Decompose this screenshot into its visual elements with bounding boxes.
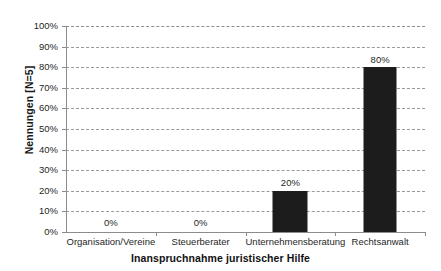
y-axis-line	[66, 26, 67, 233]
x-tick-mark	[425, 232, 426, 236]
y-tick-label: 100%	[34, 21, 58, 31]
x-category-label-rechtsanwalt: Rechtsanwalt	[335, 236, 425, 247]
bar-value-organisation-vereine: 0%	[104, 218, 118, 228]
x-axis-title: Inanspruchnahme juristischer Hilfe	[0, 252, 441, 264]
y-tick-label: 10%	[39, 206, 58, 216]
bar-slot-organisation-vereine: 0%	[66, 26, 156, 232]
bar-slot-steuerberater: 0%	[156, 26, 246, 232]
x-category-label-steuerberater: Steuerberater	[156, 236, 246, 247]
x-category-label-organisation-vereine: Organisation/Vereine	[66, 236, 156, 247]
y-tick-label: 90%	[39, 42, 58, 52]
y-tick-label: 40%	[39, 145, 58, 155]
x-category-label-unternehmensberatung: Unternehmensberatung	[246, 236, 336, 247]
y-tick-label: 50%	[39, 124, 58, 134]
bar-value-rechtsanwalt: 80%	[371, 55, 390, 65]
y-tick-label: 30%	[39, 165, 58, 175]
bar-rechtsanwalt	[364, 67, 397, 232]
y-tick-label: 70%	[39, 83, 58, 93]
bar-chart: Nennungen [N=5] 100% 90% 80% 70% 60% 50%…	[0, 0, 441, 271]
bar-slot-rechtsanwalt: 80%	[335, 26, 425, 232]
y-tick-label: 0%	[44, 227, 58, 237]
y-tick-label: 60%	[39, 103, 58, 113]
y-tick-label: 80%	[39, 62, 58, 72]
bar-value-unternehmensberatung: 20%	[281, 178, 300, 188]
plot-area: 0% 0% 20% 80%	[66, 26, 425, 232]
bar-slot-unternehmensberatung: 20%	[246, 26, 336, 232]
y-tick-label: 20%	[39, 186, 58, 196]
bar-value-steuerberater: 0%	[194, 218, 208, 228]
bar-unternehmensberatung	[273, 191, 308, 232]
